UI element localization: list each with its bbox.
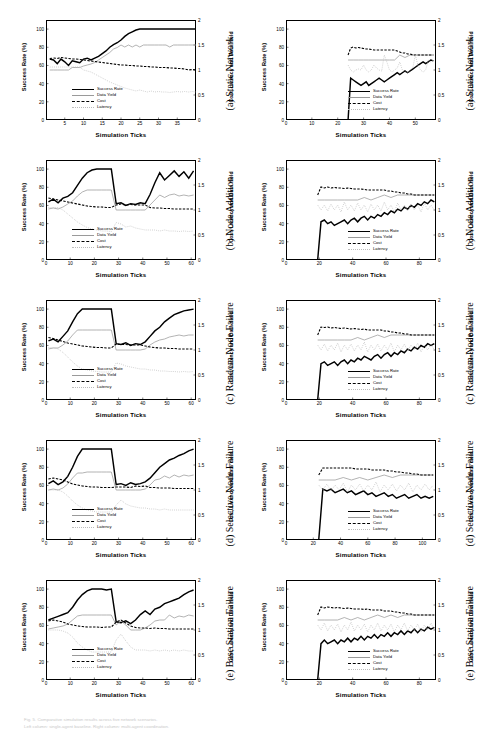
x-axis-label: Simulation Ticks xyxy=(46,552,196,558)
y-axis-label-left: Success Rate (%) xyxy=(261,147,267,267)
x-tick-label: 60 xyxy=(383,681,388,686)
legend-item: Latency xyxy=(72,104,123,110)
plot-area-left-a: 510152025303502040608010000.511.52Succes… xyxy=(46,20,196,120)
y-left-tick-label: 20 xyxy=(39,659,44,664)
y-left-tick-label: 60 xyxy=(39,343,44,348)
legend-swatch-cost xyxy=(72,519,94,524)
plot-area-left-e: 010203040506002040608010000.511.52Succes… xyxy=(46,580,196,680)
y-right-tick-label: 1.5 xyxy=(198,463,204,468)
y-right-tick-label: 2 xyxy=(198,298,201,303)
x-tick-label: 60 xyxy=(189,261,194,266)
series-line-latency xyxy=(318,622,435,632)
y-left-tick-label: 0 xyxy=(41,398,44,403)
y-left-tick-label: 80 xyxy=(39,465,44,470)
series-line-cost xyxy=(319,468,434,475)
y-right-tick-label: 1.5 xyxy=(198,323,204,328)
y-right-tick-label: 0 xyxy=(438,678,441,683)
series-line-data-yield xyxy=(348,55,433,60)
y-right-tick-label: 2 xyxy=(438,578,441,583)
legend-item: Latency xyxy=(348,106,399,112)
y-left-tick-label: 20 xyxy=(279,659,284,664)
y-right-tick-label: 0.5 xyxy=(198,373,204,378)
x-axis-label: Simulation Ticks xyxy=(286,132,436,138)
figure-caption-line: Fig. 5. Comparative simulation results a… xyxy=(24,717,157,722)
y-right-tick-labels: 00.511.52 xyxy=(437,160,449,260)
legend-label: Data Yield xyxy=(373,515,392,519)
panel-left-c: 010203040506002040608010000.511.52Succes… xyxy=(0,286,240,426)
y-right-tick-label: 1 xyxy=(438,628,441,633)
y-left-tick-label: 60 xyxy=(279,63,284,68)
y-right-tick-label: 1.5 xyxy=(198,603,204,608)
legend-label: Success Rate xyxy=(373,89,399,93)
x-axis-label: Simulation Ticks xyxy=(46,132,196,138)
panel-right-e: 02040608002040608010000.511.52Success Ra… xyxy=(240,566,480,706)
x-tick-label: 20 xyxy=(335,121,340,126)
legend-swatch-success-rate xyxy=(72,87,94,92)
plot-area-right-b: 02040608002040608010000.511.52Success Ra… xyxy=(286,160,436,260)
legend-label: Success Rate xyxy=(97,87,123,91)
y-left-tick-label: 100 xyxy=(36,167,44,172)
x-tick-label: 80 xyxy=(417,681,422,686)
plot-area-right-d: 02040608010002040608010000.511.52Success… xyxy=(286,440,436,540)
legend-swatch-success-rate xyxy=(348,229,370,234)
y-left-tick-label: 60 xyxy=(279,483,284,488)
y-right-tick-label: 1 xyxy=(438,208,441,213)
legend-swatch-latency xyxy=(348,667,370,672)
legend-label: Success Rate xyxy=(97,227,123,231)
y-left-tick-label: 40 xyxy=(39,361,44,366)
y-left-tick-label: 60 xyxy=(279,343,284,348)
y-left-tick-label: 0 xyxy=(41,538,44,543)
x-tick-label: 10 xyxy=(68,681,73,686)
x-tick-label: 60 xyxy=(365,541,370,546)
plot-area-right-a: 0102030405002040608010000.511.52Success … xyxy=(286,20,436,120)
x-axis-label: Simulation Ticks xyxy=(286,272,436,278)
x-tick-label: 15 xyxy=(100,121,105,126)
legend-label: Cost xyxy=(97,379,106,383)
plot-area-right-e: 02040608002040608010000.511.52Success Ra… xyxy=(286,580,436,680)
series-line-latency xyxy=(318,342,435,352)
series-line-data-yield xyxy=(48,330,193,350)
x-tick-label: 40 xyxy=(140,261,145,266)
legend-item: Latency xyxy=(348,386,399,392)
y-left-tick-label: 20 xyxy=(39,99,44,104)
x-tick-label: 25 xyxy=(137,121,142,126)
legend-label: Latency xyxy=(97,525,112,529)
y-axis-label-left: Success Rate (%) xyxy=(261,287,267,407)
y-right-tick-label: 1 xyxy=(198,628,201,633)
x-tick-label: 40 xyxy=(350,681,355,686)
x-tick-label: 5 xyxy=(63,121,66,126)
x-tick-label: 50 xyxy=(164,261,169,266)
x-tick-label: 20 xyxy=(92,541,97,546)
legend-item: Latency xyxy=(72,244,123,250)
y-right-tick-label: 0.5 xyxy=(438,653,444,658)
legend-label: Cost xyxy=(373,661,382,665)
legend-label: Latency xyxy=(373,247,388,251)
x-tick-label: 40 xyxy=(140,681,145,686)
y-right-tick-labels: 00.511.52 xyxy=(197,300,209,400)
legend-swatch-cost xyxy=(348,661,370,666)
series-line-latency xyxy=(319,482,434,492)
y-left-tick-label: 0 xyxy=(281,398,284,403)
y-right-tick-label: 2 xyxy=(438,298,441,303)
series-line-success-rate xyxy=(48,169,193,205)
y-right-tick-label: 0.5 xyxy=(438,373,444,378)
x-tick-label: 35 xyxy=(175,121,180,126)
x-tick-label: 60 xyxy=(383,401,388,406)
legend-label: Data Yield xyxy=(97,373,116,377)
y-left-tick-label: 0 xyxy=(281,118,284,123)
legend-label: Latency xyxy=(373,667,388,671)
y-left-tick-labels: 020406080100 xyxy=(33,160,45,260)
y-left-tick-label: 40 xyxy=(279,81,284,86)
x-tick-label: 20 xyxy=(311,541,316,546)
x-tick-label: 20 xyxy=(317,681,322,686)
legend-swatch-data-yield xyxy=(348,375,370,380)
x-tick-label: 10 xyxy=(68,541,73,546)
x-tick-label: 40 xyxy=(338,541,343,546)
x-tick-label: 10 xyxy=(81,121,86,126)
y-left-tick-label: 100 xyxy=(276,27,284,32)
y-left-tick-labels: 020406080100 xyxy=(33,440,45,540)
legend-label: Data Yield xyxy=(373,655,392,659)
plot-area-left-c: 010203040506002040608010000.511.52Succes… xyxy=(46,300,196,400)
y-right-tick-label: 1.5 xyxy=(438,43,444,48)
x-tick-label: 20 xyxy=(118,121,123,126)
